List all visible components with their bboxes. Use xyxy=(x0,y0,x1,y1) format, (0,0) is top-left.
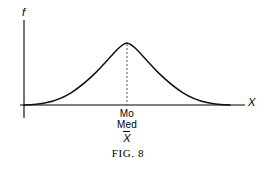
figure-8-normal-curve: f X Mo Med X FIG. 8 xyxy=(0,0,270,170)
mode-label: Mo xyxy=(0,108,254,119)
figure-caption: FIG. 8 xyxy=(0,147,256,160)
x-axis-label: X xyxy=(248,97,255,108)
mean-symbol: X xyxy=(123,131,131,145)
y-axis-label: f xyxy=(22,7,25,18)
mean-label: X xyxy=(0,131,254,145)
median-label: Med xyxy=(0,119,254,130)
central-tendency-labels: Mo Med X xyxy=(0,108,254,145)
